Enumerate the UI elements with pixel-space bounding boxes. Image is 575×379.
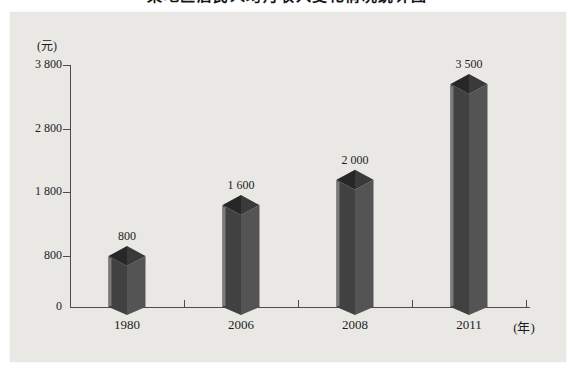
y-tick-label: 3 800 <box>6 57 62 72</box>
y-tick-label: 1 800 <box>6 184 62 199</box>
x-category-label: 1980 <box>92 317 162 333</box>
chart-title-text: 某地区居民人均月收入变化情况统计图 <box>0 0 575 5</box>
x-category-label: 2011 <box>434 317 504 333</box>
x-category-label: 2006 <box>206 317 276 333</box>
y-tick-label: 800 <box>6 248 62 263</box>
y-tick-label: 0 <box>6 299 62 314</box>
bar-value-label: 3 500 <box>434 57 504 72</box>
chart-title-clipped: 某地区居民人均月收入变化情况统计图 <box>0 0 575 6</box>
y-tick-label: 2 800 <box>6 121 62 136</box>
page: 某地区居民人均月收入变化情况统计图 3 8002 8001 8008000800… <box>0 0 575 379</box>
bar-value-label: 1 600 <box>206 178 276 193</box>
x-category-label: 2008 <box>320 317 390 333</box>
x-axis-unit-label: (年) <box>496 317 552 336</box>
y-axis-unit-label: (元) <box>25 36 69 54</box>
chart-labels-layer: 3 8002 8001 800800080019801 60020062 000… <box>0 0 575 379</box>
bar-value-label: 2 000 <box>320 153 390 168</box>
bar-value-label: 800 <box>92 229 162 244</box>
